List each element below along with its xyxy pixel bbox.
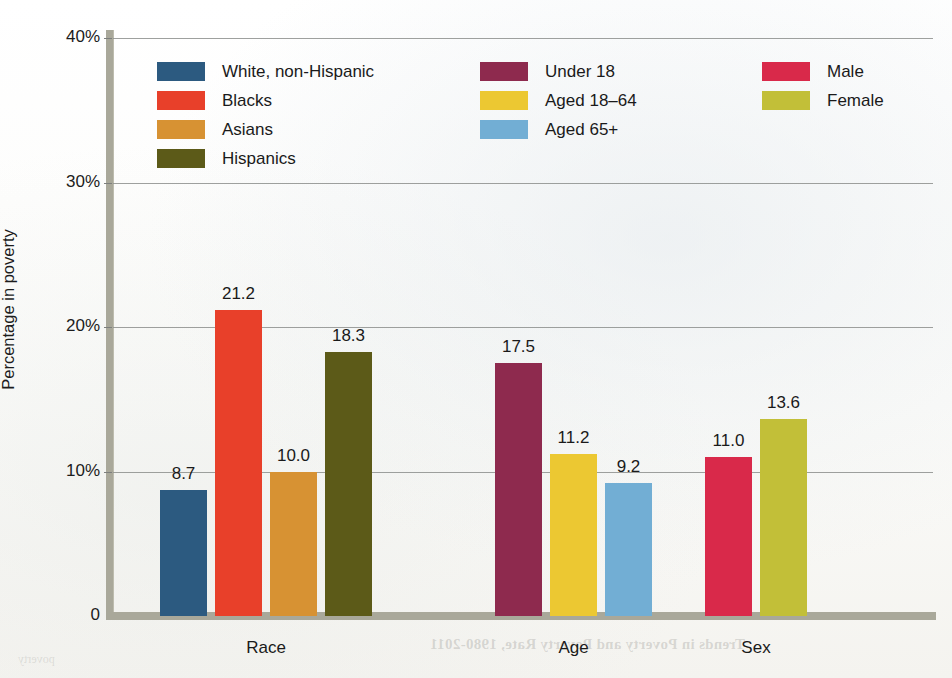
y-tick-mark xyxy=(104,183,112,184)
legend-label: Blacks xyxy=(222,91,272,111)
bleed-through-text: poverty xyxy=(18,652,55,667)
bar xyxy=(495,363,542,616)
legend-label: Male xyxy=(827,62,864,82)
bar-value-label: 8.7 xyxy=(148,464,219,484)
y-tick-mark xyxy=(104,327,112,328)
group-label-race: Race xyxy=(120,638,412,658)
bar-value-label: 9.2 xyxy=(593,457,664,477)
y-tick-mark xyxy=(104,472,112,473)
gridline-30 xyxy=(113,183,933,184)
bar xyxy=(550,454,597,616)
legend-item: Hispanics xyxy=(157,144,374,173)
legend-color-swatch xyxy=(480,120,528,139)
legend-column-1: White, non-HispanicBlacksAsiansHispanics xyxy=(157,57,374,173)
bar-value-label: 17.5 xyxy=(483,337,554,357)
legend-label: Hispanics xyxy=(222,149,296,169)
bar-value-label: 13.6 xyxy=(748,393,819,413)
legend-color-swatch xyxy=(480,62,528,81)
bar xyxy=(160,490,207,616)
bar xyxy=(705,457,752,616)
legend-label: Aged 18–64 xyxy=(545,91,637,111)
y-tick-mark xyxy=(104,38,112,39)
y-tick-label: 40% xyxy=(66,27,100,47)
legend-color-swatch xyxy=(157,91,205,110)
bar xyxy=(215,310,262,616)
legend-color-swatch xyxy=(480,91,528,110)
bar-value-label: 18.3 xyxy=(313,326,384,346)
y-axis-title: Percentage in poverty xyxy=(0,80,18,540)
legend-label: White, non-Hispanic xyxy=(222,62,374,82)
legend-item: Aged 65+ xyxy=(480,115,637,144)
bar-value-label: 11.2 xyxy=(538,428,609,448)
legend-color-swatch xyxy=(762,62,810,81)
bar-value-label: 11.0 xyxy=(693,431,764,451)
y-tick-label: 30% xyxy=(66,172,100,192)
legend-label: Female xyxy=(827,91,884,111)
group-label-age: Age xyxy=(455,638,692,658)
legend-item: Female xyxy=(762,86,884,115)
bar-value-label: 21.2 xyxy=(203,284,274,304)
legend-column-2: Under 18Aged 18–64Aged 65+ xyxy=(480,57,637,144)
legend-color-swatch xyxy=(157,62,205,81)
legend-color-swatch xyxy=(762,91,810,110)
poverty-bar-chart: Trends in Poverty and Poverty Rate, 1980… xyxy=(0,0,952,678)
legend-label: Under 18 xyxy=(545,62,615,82)
legend-color-swatch xyxy=(157,120,205,139)
bar-value-label: 10.0 xyxy=(258,446,329,466)
legend-item: White, non-Hispanic xyxy=(157,57,374,86)
legend-item: Aged 18–64 xyxy=(480,86,637,115)
y-tick-label: 20% xyxy=(66,316,100,336)
chart-legend: White, non-HispanicBlacksAsiansHispanics… xyxy=(157,57,897,175)
legend-item: Under 18 xyxy=(480,57,637,86)
bar xyxy=(760,419,807,616)
legend-label: Asians xyxy=(222,120,273,140)
legend-item: Male xyxy=(762,57,884,86)
legend-column-3: MaleFemale xyxy=(762,57,884,115)
bar xyxy=(270,472,317,617)
y-tick-label: 10% xyxy=(66,461,100,481)
group-label-sex: Sex xyxy=(665,638,847,658)
legend-label: Aged 65+ xyxy=(545,120,618,140)
legend-item: Blacks xyxy=(157,86,374,115)
bar xyxy=(605,483,652,616)
bar xyxy=(325,352,372,616)
y-tick-label: 0 xyxy=(91,605,100,625)
legend-color-swatch xyxy=(157,149,205,168)
legend-item: Asians xyxy=(157,115,374,144)
gridline-40 xyxy=(113,38,933,39)
